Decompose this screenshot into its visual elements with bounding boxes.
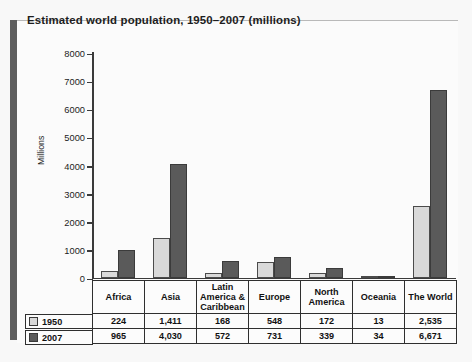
table-column-header: NorthAmerica (301, 281, 353, 314)
bar-group (361, 53, 395, 278)
bar-2007-north-america (326, 268, 343, 278)
table-column-header-line: Europe (249, 292, 300, 302)
y-axis-title: Millions (36, 136, 46, 165)
table-column-header-line: Oceania (353, 292, 404, 302)
bar-1950-the-world (413, 206, 430, 277)
bar-group (309, 53, 343, 278)
table-row: 2241,411168548172132,535 (92, 314, 457, 329)
table-cell: 572 (197, 329, 249, 344)
y-axis-tick (87, 138, 93, 140)
y-axis-tick-label: 1000 (64, 246, 85, 256)
table-header-row: AfricaAsiaLatinAmerica &CaribbeanEuropeN… (92, 281, 457, 314)
table-cell: 965 (93, 329, 145, 344)
table-column-header: Europe (249, 281, 301, 314)
table-cell: 168 (197, 314, 249, 329)
bar-group (257, 53, 291, 278)
table-cell: 1,411 (145, 314, 197, 329)
table-column-header-line: Latin (197, 282, 248, 292)
legend-item-2007: 2007 (25, 330, 93, 345)
bar-1950-africa (101, 271, 118, 277)
y-axis-tick (87, 82, 93, 84)
table-column-header-line: Africa (93, 292, 144, 302)
table-column-header-line: Asia (145, 292, 196, 302)
data-table: AfricaAsiaLatinAmerica &CaribbeanEuropeN… (92, 280, 457, 344)
table-cell: 4,030 (145, 329, 197, 344)
y-axis-tick-label: 7000 (64, 77, 85, 87)
bar-group (101, 53, 135, 278)
bar-group (205, 53, 239, 278)
table-column-header: Africa (93, 281, 145, 314)
table-cell: 172 (301, 314, 353, 329)
bar-2007-africa (118, 250, 135, 277)
y-axis-tick (87, 166, 93, 168)
table-column-header-line: North (301, 287, 352, 297)
y-axis-tick-label: 0 (80, 274, 85, 284)
table-column-header-line: America (301, 297, 352, 307)
table-column-header: The World (405, 281, 457, 314)
legend-swatch-icon (29, 333, 38, 342)
table-cell: 6,671 (405, 329, 457, 344)
x-axis-line (92, 278, 456, 280)
table-column-header-line: The World (405, 292, 456, 302)
bar-group (153, 53, 187, 278)
table-column-header-line: Caribbean (197, 302, 248, 312)
y-axis-tick (87, 222, 93, 224)
table-cell: 339 (301, 329, 353, 344)
table-cell: 34 (353, 329, 405, 344)
bar-2007-europe (274, 257, 291, 278)
bar-1950-latin-america-caribbean (205, 273, 222, 278)
bar-1950-oceania (361, 276, 378, 278)
legend-label: 2007 (42, 333, 62, 343)
table-column-header: Oceania (353, 281, 405, 314)
y-axis-tick-label: 5000 (64, 133, 85, 143)
table-column-header: LatinAmerica &Caribbean (197, 281, 249, 314)
table-column-header: Asia (145, 281, 197, 314)
table-cell: 548 (249, 314, 301, 329)
table-cell: 224 (93, 314, 145, 329)
table-row: 9654,030572731339346,671 (92, 329, 457, 344)
bar-2007-the-world (430, 90, 447, 278)
bar-1950-north-america (309, 273, 326, 278)
page-edge-spine (10, 20, 17, 340)
bar-2007-oceania (378, 276, 395, 278)
table-cell: 13 (353, 314, 405, 329)
bar-2007-latin-america-caribbean (222, 261, 239, 277)
y-axis-tick-label: 6000 (64, 105, 85, 115)
y-axis-tick-label: 3000 (64, 190, 85, 200)
y-axis-tick-label: 4000 (64, 162, 85, 172)
y-axis-tick-label: 2000 (64, 218, 85, 228)
table-column-header-line: America & (197, 292, 248, 302)
legend-label: 1950 (42, 317, 62, 327)
table-cell: 731 (249, 329, 301, 344)
y-axis-tick (87, 250, 93, 252)
y-axis-tick (87, 110, 93, 112)
table-cell: 2,535 (405, 314, 457, 329)
bar-1950-asia (153, 238, 170, 278)
y-axis-tick (87, 54, 93, 56)
figure-root: Estimated world population, 1950–2007 (m… (0, 0, 472, 362)
bar-chart: 010002000300040005000600070008000 (92, 52, 456, 279)
bar-1950-europe (257, 262, 274, 277)
bar-2007-asia (170, 164, 187, 277)
legend-item-1950: 1950 (25, 314, 93, 329)
y-axis-tick (87, 194, 93, 196)
page-title: Estimated world population, 1950–2007 (m… (27, 14, 301, 26)
y-axis-tick-label: 8000 (64, 49, 85, 59)
legend-swatch-icon (29, 317, 38, 326)
bar-group (413, 53, 447, 278)
